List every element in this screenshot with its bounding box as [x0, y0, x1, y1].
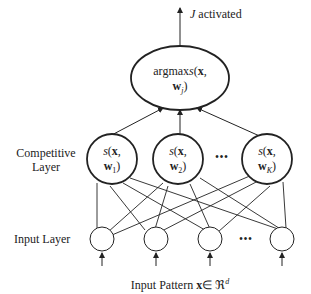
input-pattern-label: Input Pattern x∈ ℜd [100, 275, 260, 292]
input-layer-label: Input Layer [14, 232, 70, 246]
competitive-layer-label: Competitive Layer [6, 146, 86, 174]
output-label: J activated [190, 7, 242, 21]
competitive-ellipsis: ••• [208, 150, 236, 164]
argmax-label: argmaxs(x,wj) [131, 64, 229, 98]
input-ellipsis: ••• [232, 232, 260, 246]
competitive-node-k: s(x,wK) [242, 144, 292, 178]
competitive-node-2: s(x,w2) [153, 144, 203, 178]
competitive-node-1: s(x,w1) [87, 144, 137, 178]
